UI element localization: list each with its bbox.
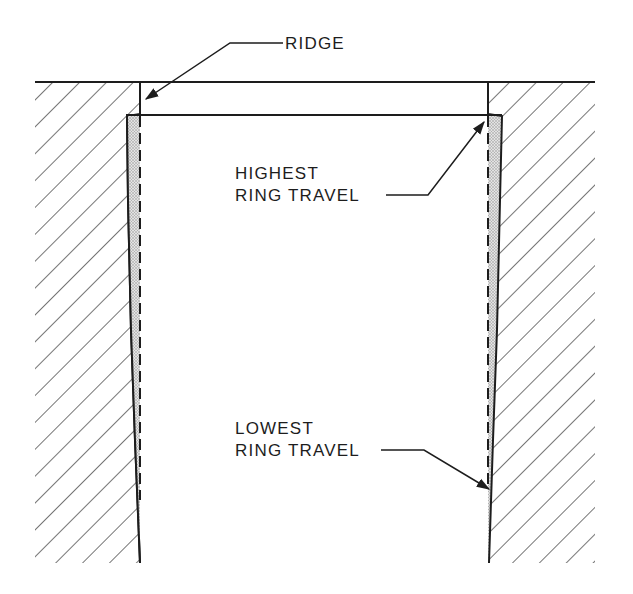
highest-ring-travel-label-line1: HIGHEST xyxy=(235,163,319,184)
left-cylinder-wall xyxy=(35,83,140,563)
figure-caption-clipped xyxy=(0,588,633,594)
right-cylinder-wall xyxy=(488,83,595,563)
highest-ring-travel-label-line2: RING TRAVEL xyxy=(235,185,360,206)
lowest-ring-travel-label-line2: RING TRAVEL xyxy=(235,440,360,461)
lowest-ring-travel-leader xyxy=(381,450,489,489)
lowest-ring-travel-label-line1: LOWEST xyxy=(235,418,314,439)
ridge-label: RIDGE xyxy=(285,33,345,54)
cylinder-wear-diagram xyxy=(0,0,633,594)
highest-ring-travel-leader xyxy=(386,122,484,195)
